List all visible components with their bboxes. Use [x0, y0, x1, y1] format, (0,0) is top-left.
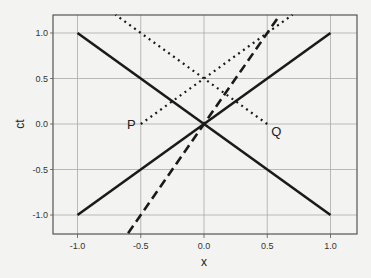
y-tick-label: 1.0 — [35, 28, 48, 38]
y-tick-label: 0.5 — [35, 74, 48, 84]
series-line-dotted — [115, 15, 267, 124]
y-tick-label: -1.0 — [32, 210, 48, 220]
x-tick-label: -1.0 — [70, 241, 86, 251]
x-tick-label: 0.5 — [261, 241, 274, 251]
y-axis-label: ct — [13, 119, 27, 129]
x-tick-label: -0.5 — [133, 241, 149, 251]
chart: -1.0-0.50.00.51.01.00.50.0-0.5-1.0 PQ x … — [0, 0, 371, 278]
y-tick-label: -0.5 — [32, 165, 48, 175]
y-tick-label: 0.0 — [35, 119, 48, 129]
point-label-p: P — [127, 117, 136, 132]
x-axis-label: x — [201, 255, 207, 269]
x-tick-label: 1.0 — [324, 241, 337, 251]
point-label-q: Q — [271, 124, 281, 139]
x-tick-label: 0.0 — [198, 241, 211, 251]
